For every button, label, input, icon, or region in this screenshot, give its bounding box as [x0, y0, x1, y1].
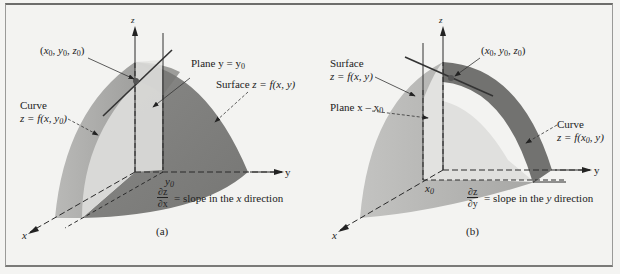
curve-label-a-line2: z = f(x, y0): [20, 112, 67, 124]
point-b: [448, 75, 454, 81]
surface-label-a: Surface z = f(x, y): [216, 78, 295, 90]
surface-label-b-line2: z = f(x, y): [330, 70, 373, 82]
diagram-canvas: [0, 0, 620, 274]
curve-label-b-line1: Curve: [557, 118, 584, 130]
point-label-a: (x0, y0, z0): [40, 44, 84, 56]
slope-text-a: = slope in the x direction: [174, 192, 283, 204]
plane-label-b: Plane x – x0: [330, 101, 383, 113]
curve-label-b-line2: z = f(x0, y): [557, 131, 604, 143]
y-axis-label-b: y: [594, 164, 600, 176]
z-axis-label-b: z: [439, 14, 443, 26]
y-axis-label-a: y: [285, 166, 291, 178]
z-axis-arrow-a: [132, 26, 138, 36]
x-axis-label-a: x: [22, 229, 27, 241]
caption-a: (a): [156, 225, 168, 237]
plane-label-a: Plane y = y0: [191, 57, 245, 69]
slope-text-b: = slope in the y direction: [484, 192, 593, 204]
x0-label-b: x0: [425, 182, 434, 194]
curve-label-a-line1: Curve: [20, 99, 47, 111]
derivative-b: ∂z ∂y: [467, 186, 478, 209]
derivative-a: ∂z ∂x: [157, 186, 168, 209]
surface-label-b-line1: Surface: [330, 57, 364, 69]
x-axis-label-b: x: [332, 229, 337, 241]
point-label-b: (x0, y0, z0): [481, 44, 525, 56]
caption-b: (b): [466, 225, 479, 237]
z-axis-label-a: z: [131, 14, 135, 26]
